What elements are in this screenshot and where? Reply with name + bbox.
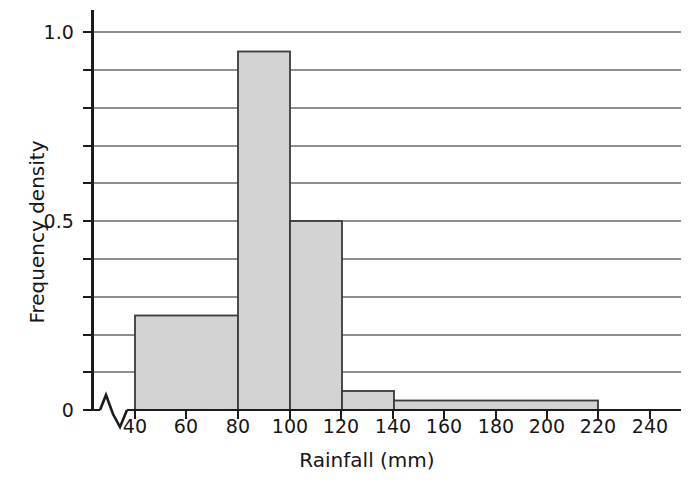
bar-140-220	[394, 401, 598, 411]
bars-group	[135, 52, 598, 411]
histogram-chart: 1.0 0.5 0 40 60 80 100 120 140 160 180 2…	[0, 0, 688, 480]
x-axis-title-text: Rainfall (mm)	[299, 448, 434, 472]
x-tick-label-100: 100	[272, 417, 309, 436]
bar-120-140	[342, 391, 394, 410]
bar-100-120	[290, 221, 342, 410]
x-tick-label-180: 180	[478, 417, 515, 436]
x-tick-label-160: 160	[426, 417, 463, 436]
y-axis-title: Frequency density	[27, 102, 47, 362]
y-tick-label-1.0: 1.0	[20, 23, 74, 42]
x-axis-title: Rainfall (mm)	[0, 450, 688, 470]
x-tick-label-120: 120	[323, 417, 360, 436]
bar-40-80	[135, 316, 238, 411]
plot-area: 1.0 0.5 0 40 60 80 100 120 140 160 180 2…	[0, 0, 688, 480]
x-tick-label-240: 240	[632, 417, 669, 436]
x-tick-label-80: 80	[226, 417, 250, 436]
bar-80-100	[238, 52, 290, 411]
x-tick-label-60: 60	[174, 417, 198, 436]
x-tick-label-200: 200	[529, 417, 566, 436]
chart-canvas	[0, 0, 688, 480]
x-tick-label-220: 220	[580, 417, 617, 436]
x-tick-label-140: 140	[375, 417, 412, 436]
y-tick-label-0: 0	[20, 401, 74, 420]
x-tick-label-40: 40	[123, 417, 147, 436]
